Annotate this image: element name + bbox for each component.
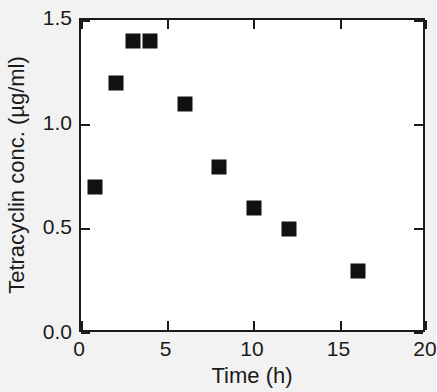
x-axis-tick <box>425 20 427 29</box>
y-axis-tick <box>414 20 423 22</box>
y-tick-label: 1.0 <box>43 111 72 135</box>
x-axis-tick <box>425 321 427 330</box>
y-axis-tick <box>414 228 423 230</box>
y-tick-label: 0.0 <box>43 320 72 344</box>
data-point <box>143 33 158 48</box>
data-point <box>125 33 140 48</box>
x-axis-tick <box>81 321 83 330</box>
x-tick-label: 10 <box>240 337 263 361</box>
data-point <box>350 264 365 279</box>
y-axis-tick <box>81 20 90 22</box>
x-tick-label: 15 <box>327 337 350 361</box>
x-axis-tick <box>253 20 255 29</box>
plot-area <box>79 18 425 332</box>
data-point <box>108 75 123 90</box>
x-tick-label: 5 <box>160 337 172 361</box>
x-axis-tick <box>253 321 255 330</box>
data-point <box>247 201 262 216</box>
x-axis-tick <box>167 321 169 330</box>
y-tick-label: 0.5 <box>43 215 72 239</box>
y-axis-tick <box>414 332 423 334</box>
y-axis-tick <box>81 124 90 126</box>
data-point <box>212 159 227 174</box>
data-point <box>281 222 296 237</box>
y-axis-tick <box>81 228 90 230</box>
x-tick-label: 20 <box>413 337 436 361</box>
x-axis-tick <box>340 20 342 29</box>
y-axis-title: Tetracyclin conc. (µg/ml) <box>4 18 30 332</box>
x-axis-title: Time (h) <box>79 363 425 389</box>
x-tick-label: 0 <box>73 337 85 361</box>
y-axis-tick <box>414 124 423 126</box>
y-axis-tick <box>81 332 90 334</box>
y-tick-label: 1.5 <box>43 6 72 30</box>
data-point <box>87 180 102 195</box>
x-axis-tick <box>167 20 169 29</box>
data-point <box>177 96 192 111</box>
x-axis-tick <box>340 321 342 330</box>
